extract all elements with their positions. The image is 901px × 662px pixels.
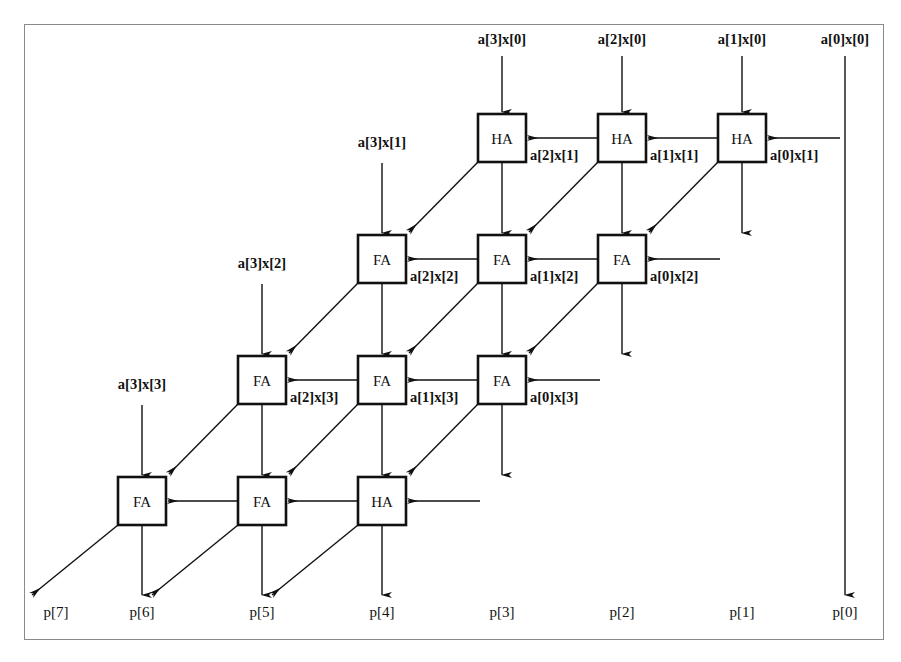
cell-type-label: HA [371,494,393,510]
top-input-label: a[0]x[0] [821,31,869,47]
top-input-label: a[3]x[0] [478,31,526,47]
carry-out-wire [649,162,718,232]
side-input-label: a[1]x[1] [650,147,698,163]
left-input-label: a[3]x[2] [238,255,286,271]
cell-type-label: FA [493,252,511,268]
cell-type-label: HA [491,131,513,147]
top-input-label: a[1]x[0] [718,31,766,47]
adder-cell-fa-r3-c0[interactable]: FA [118,477,166,525]
product-output-label: p[5] [250,604,275,620]
adder-cell-fa-r2-c0[interactable]: FA [238,356,286,404]
cell-type-label: FA [373,252,391,268]
cell-type-label: HA [611,131,633,147]
adder-cell-fa-r2-c2[interactable]: FA [478,356,526,404]
carry-output-wire [272,525,358,595]
carry-out-wire [169,404,238,474]
side-input-label: a[0]x[2] [650,268,698,284]
cell-type-label: FA [493,373,511,389]
side-input-label: a[2]x[2] [410,268,458,284]
carry-out-wire [409,404,478,474]
carry-out-wire [289,404,358,474]
carry-output-wire [32,525,118,595]
carry-output-wire [152,525,238,595]
cell-type-label: FA [253,373,271,389]
carry-out-wire [409,283,478,353]
product-output-label: p[4] [370,604,395,620]
product-output-label: p[7] [44,604,69,620]
product-output-label: p[6] [130,604,155,620]
product-output-label: p[2] [610,604,635,620]
side-input-label: a[2]x[3] [290,389,338,405]
adder-cell-fa-r2-c1[interactable]: FA [358,356,406,404]
product-output-label: p[3] [490,604,515,620]
side-input-label: a[0]x[3] [530,389,578,405]
adder-cell-fa-r1-c0[interactable]: FA [358,235,406,283]
adder-cell-ha-r0-c2[interactable]: HA [718,114,766,162]
side-input-label: a[0]x[1] [770,147,818,163]
carry-out-wire [529,162,598,232]
top-input-label: a[2]x[0] [598,31,646,47]
adder-cell-ha-r0-c0[interactable]: HA [478,114,526,162]
carry-out-wire [289,283,358,353]
adder-cell-ha-r0-c1[interactable]: HA [598,114,646,162]
diagram-page: HAHAHAFAFAFAFAFAFAFAFAHA a[3]x[0]a[2]x[0… [0,0,901,662]
cell-type-label: FA [133,494,151,510]
side-input-label: a[1]x[2] [530,268,578,284]
cell-type-label: HA [731,131,753,147]
diagram-canvas: HAHAHAFAFAFAFAFAFAFAFAHA a[3]x[0]a[2]x[0… [0,0,901,662]
adder-cell-fa-r1-c2[interactable]: FA [598,235,646,283]
adder-cell-ha-r3-c2[interactable]: HA [358,477,406,525]
cell-type-label: FA [253,494,271,510]
carry-out-wire [409,162,478,232]
cell-type-label: FA [373,373,391,389]
product-output-label: p[0] [833,604,858,620]
left-input-label: a[3]x[1] [358,134,406,150]
product-output-label: p[1] [730,604,755,620]
carry-out-wire [529,283,598,353]
side-input-label: a[2]x[1] [530,147,578,163]
cell-type-label: FA [613,252,631,268]
side-input-label: a[1]x[3] [410,389,458,405]
adder-cell-fa-r1-c1[interactable]: FA [478,235,526,283]
adder-cell-fa-r3-c1[interactable]: FA [238,477,286,525]
left-input-label: a[3]x[3] [118,376,166,392]
